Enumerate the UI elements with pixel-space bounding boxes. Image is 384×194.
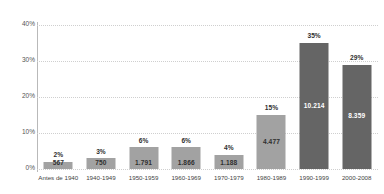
bar-group: 1.8666%	[165, 0, 208, 169]
bar-group: 5672%	[37, 0, 80, 169]
bar-percent-label: 15%	[265, 105, 278, 112]
bars-layer: 5672%7503%1.7916%1.8666%1.1884%4.47715%1…	[37, 0, 378, 169]
bar-value-label: 1.791	[129, 160, 158, 167]
bar-group: 8.35929%	[335, 0, 378, 169]
bar: 1.188	[214, 155, 243, 169]
y-axis-tick: 20%	[1, 97, 35, 98]
bar-percent-label: 6%	[139, 138, 149, 145]
bar-percent-label: 4%	[224, 145, 234, 152]
bar: 4.477	[257, 115, 286, 169]
bar: 1.866	[172, 147, 201, 169]
bar-percent-label: 35%	[307, 33, 320, 40]
y-axis-tick-label: 0%	[26, 165, 35, 172]
y-axis-tick: 30%	[1, 61, 35, 62]
bar-value-label: 1.866	[172, 160, 201, 167]
bar: 1.791	[129, 147, 158, 169]
bar-percent-label: 2%	[54, 152, 64, 159]
bar-value-label: 1.188	[214, 160, 243, 167]
x-axis-category-label: 1960-1969	[165, 175, 208, 181]
bar-percent-label: 6%	[181, 138, 191, 145]
bar: 567	[44, 162, 73, 169]
y-axis-tick: 10%	[1, 133, 35, 134]
x-axis-category-label: 2000-2008	[335, 175, 378, 181]
bar-value-label: 4.477	[257, 139, 286, 146]
bar-value-label: 10.214	[300, 103, 329, 110]
bar: 8.359	[342, 65, 371, 169]
x-axis-category-label: 1940-1949	[80, 175, 123, 181]
bar-percent-label: 29%	[350, 55, 363, 62]
y-axis-tick: 0%	[1, 169, 35, 170]
bar-value-label: 750	[86, 160, 115, 167]
bar-value-label: 567	[44, 160, 73, 167]
y-axis-tick-label: 40%	[22, 21, 35, 28]
x-axis-category-label: 1970-1979	[208, 175, 251, 181]
bar-group: 7503%	[80, 0, 123, 169]
y-axis-tick-label: 30%	[22, 57, 35, 64]
y-axis-tick-label: 10%	[22, 129, 35, 136]
bar: 10.214	[300, 43, 329, 169]
bar-group: 4.47715%	[250, 0, 293, 169]
bar-group: 1.1884%	[208, 0, 251, 169]
x-axis-category-label: 1950-1959	[122, 175, 165, 181]
x-axis-category-label: Antes de 1940	[37, 175, 80, 181]
y-axis-tick: 40%	[1, 25, 35, 26]
bar-chart: 0%10%20%30%40% 5672%7503%1.7916%1.8666%1…	[0, 0, 384, 194]
x-axis-category-label: 1990-1999	[293, 175, 336, 181]
bar: 750	[86, 158, 115, 169]
gridline	[37, 169, 378, 170]
bar-value-label: 8.359	[342, 113, 371, 120]
bar-percent-label: 3%	[96, 149, 106, 156]
y-axis-tick-label: 20%	[22, 93, 35, 100]
x-axis-category-label: 1980-1989	[250, 175, 293, 181]
bar-group: 1.7916%	[122, 0, 165, 169]
x-axis-category-labels: Antes de 19401940-19491950-19591960-1969…	[37, 175, 378, 189]
bar-group: 10.21435%	[293, 0, 336, 169]
